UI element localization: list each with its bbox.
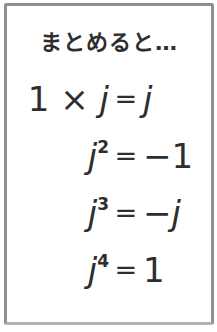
equation-row-2: j2 = −1: [7, 127, 211, 184]
equation-rhs-value: −1: [143, 136, 193, 176]
equation-exponent: 3: [97, 194, 109, 214]
equals-sign: =: [109, 256, 143, 283]
equation-row-3: j3 = −j: [7, 184, 211, 241]
equation-lhs: j3: [7, 196, 109, 230]
note-title: まとめると…: [7, 24, 211, 56]
equation-lhs: j4: [7, 253, 109, 287]
equals-sign: =: [109, 199, 143, 226]
equation-lhs: 1 × j: [7, 82, 109, 116]
equation-lhs: j2: [7, 139, 109, 173]
equation-variable: j: [88, 193, 97, 233]
equation-rhs: j: [143, 82, 211, 116]
equation-variable: j: [88, 250, 97, 290]
equation-variable: j: [100, 79, 109, 119]
equation-coefficient: 1 ×: [28, 79, 100, 119]
equation-rhs: −j: [143, 196, 211, 230]
summary-note-box: まとめると… 1 × j = j j2 = −1 j3 = −j j4 = 1: [4, 3, 214, 325]
equation-rhs: −1: [143, 139, 211, 173]
equation-rhs-value: 1: [143, 250, 165, 290]
equation-list: 1 × j = j j2 = −1 j3 = −j j4 = 1: [7, 70, 211, 298]
equals-sign: =: [109, 85, 143, 112]
equation-row-1: 1 × j = j: [7, 70, 211, 127]
equation-variable: j: [88, 136, 97, 176]
equals-sign: =: [109, 142, 143, 169]
equation-row-4: j4 = 1: [7, 241, 211, 298]
note-page: まとめると… 1 × j = j j2 = −1 j3 = −j j4 = 1: [0, 0, 217, 332]
equation-exponent: 4: [97, 251, 109, 271]
equation-rhs-variable: j: [143, 79, 152, 119]
equation-exponent: 2: [97, 137, 109, 157]
equation-rhs-variable: j: [172, 193, 181, 233]
equation-rhs: 1: [143, 253, 211, 287]
equation-rhs-value: −: [143, 193, 172, 233]
